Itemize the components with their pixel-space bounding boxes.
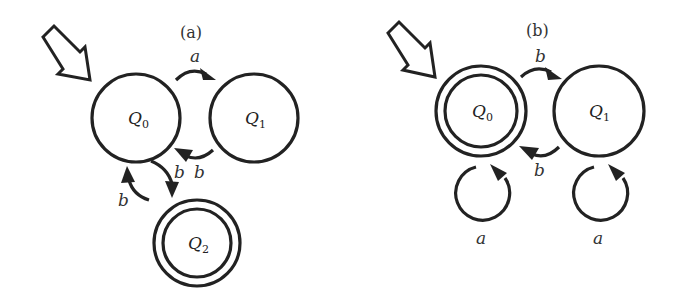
arrowhead-icon — [165, 181, 179, 198]
caption-b: (b) — [526, 21, 549, 40]
diagram-a: (a) Q0 Q1 Q2 a b b b — [43, 23, 298, 286]
arrowhead-icon — [174, 148, 193, 162]
label-b-q0q1: b — [535, 46, 546, 66]
state-q1-a-label: Q1 — [245, 108, 266, 131]
start-arrow-icon — [43, 26, 90, 80]
arrowhead-icon — [545, 67, 562, 80]
arrowhead-icon — [200, 68, 216, 80]
label-b-q1q0: b — [194, 162, 205, 182]
caption-a: (a) — [180, 23, 202, 42]
label-b-q1q0: b — [534, 160, 545, 180]
state-q1-b-label: Q1 — [589, 101, 610, 124]
start-arrow-icon — [388, 22, 435, 77]
state-q0-b-label: Q0 — [472, 101, 493, 124]
transition-q0-q2-a — [151, 161, 172, 184]
label-b-q0q2: b — [174, 162, 185, 182]
label-a-q0loop: a — [476, 228, 486, 248]
label-b-q2q0: b — [118, 190, 129, 210]
diagram-b: (b) Q0 Q1 b b a a — [388, 21, 644, 248]
arrowhead-icon — [519, 146, 539, 160]
label-a-q0q1: a — [190, 46, 200, 66]
arrowhead-icon — [121, 166, 135, 183]
automata-diagram: (a) Q0 Q1 Q2 a b b b (b) — [0, 0, 678, 297]
state-q2-a-label: Q2 — [188, 233, 209, 256]
state-q0-a-label: Q0 — [128, 108, 149, 131]
label-a-q1loop: a — [593, 228, 603, 248]
transition-q2-q0-a — [129, 180, 149, 200]
